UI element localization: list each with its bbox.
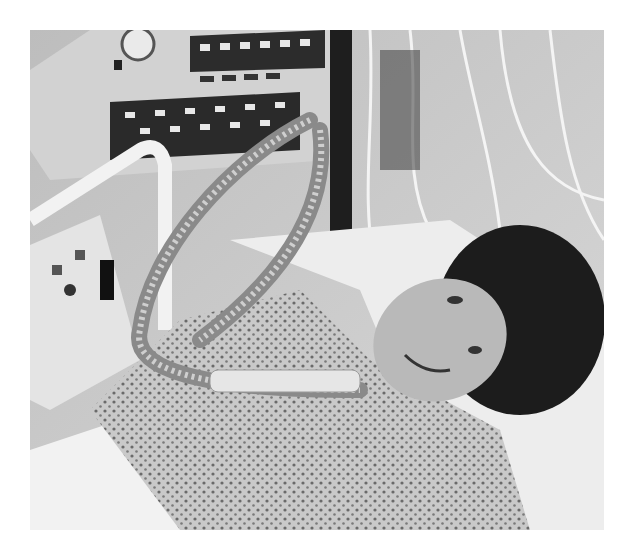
ventilator-control-panel — [30, 30, 330, 180]
tracheostomy-connector — [210, 370, 360, 392]
equipment-pole — [330, 30, 352, 260]
hospital-photograph — [30, 30, 604, 530]
